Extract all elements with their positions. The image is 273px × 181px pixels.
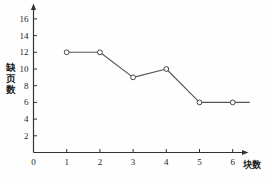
x-tick-label: 0 <box>31 158 36 167</box>
y-tick-label: 6 <box>24 98 29 107</box>
y-tick-label: 14 <box>20 31 29 40</box>
x-axis-label: 块数 <box>243 158 261 171</box>
x-tick-label: 4 <box>164 158 169 167</box>
y-tick-label: 8 <box>24 81 29 90</box>
y-axis-label-char: 页 <box>4 73 18 84</box>
series-polyline <box>67 52 250 102</box>
y-axis-label: 缺页数 <box>4 62 18 95</box>
x-tick-label: 5 <box>197 158 202 167</box>
data-point-marker <box>98 50 103 55</box>
x-tick-label: 3 <box>131 158 136 167</box>
y-axis-arrowhead <box>31 4 36 11</box>
data-point-marker <box>164 67 169 72</box>
x-tick-label: 2 <box>98 158 103 167</box>
data-point-markers <box>64 50 235 105</box>
x-axis-arrowhead <box>242 150 249 155</box>
data-point-marker <box>64 50 69 55</box>
y-tick-label: 10 <box>20 65 29 74</box>
data-point-marker <box>131 75 136 80</box>
y-tick-label: 2 <box>24 131 29 140</box>
y-tick-label: 16 <box>20 14 29 23</box>
x-tick-label: 1 <box>64 158 69 167</box>
chart-canvas <box>0 0 273 181</box>
x-tick-label: 6 <box>230 158 235 167</box>
y-axis-label-char: 数 <box>4 84 18 95</box>
axes <box>31 4 249 156</box>
data-series-line <box>67 52 250 102</box>
y-tick-label: 4 <box>24 115 29 124</box>
y-axis-label-char: 缺 <box>4 62 18 73</box>
tick-marks <box>34 19 233 153</box>
line-chart: 246810121416 0123456 缺页数 块数 <box>0 0 273 181</box>
data-point-marker <box>230 100 235 105</box>
data-point-marker <box>197 100 202 105</box>
y-tick-label: 12 <box>20 48 29 57</box>
